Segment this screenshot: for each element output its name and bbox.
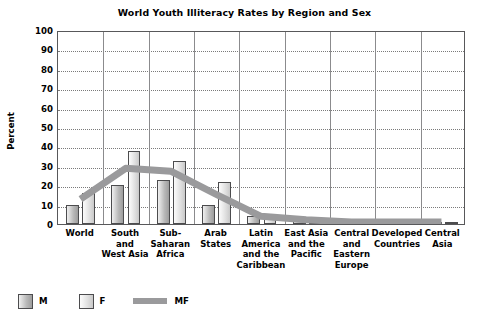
x-axis-label-line: Asia xyxy=(414,239,470,250)
legend-swatch-mf-icon xyxy=(133,298,167,304)
plot-area xyxy=(57,31,465,225)
legend-label-f: F xyxy=(100,296,106,306)
y-axis-tick-label: 100 xyxy=(3,27,53,36)
y-axis: Percent 0102030405060708090100 xyxy=(0,31,53,225)
legend-item-m: M xyxy=(18,294,48,309)
y-axis-tick-label: 40 xyxy=(3,143,53,152)
y-axis-tick-label: 70 xyxy=(3,85,53,94)
y-axis-tick-label: 50 xyxy=(3,124,53,133)
x-axis-label-line: Central xyxy=(414,228,470,239)
y-axis-tick-label: 20 xyxy=(3,182,53,191)
y-axis-tick-label: 80 xyxy=(3,66,53,75)
chart-container: World Youth Illiteracy Rates by Region a… xyxy=(0,0,489,322)
x-axis-label-line: Europe xyxy=(324,260,380,271)
legend-item-mf: MF xyxy=(133,296,188,306)
legend-swatch-f-icon xyxy=(79,294,94,309)
chart-title: World Youth Illiteracy Rates by Region a… xyxy=(0,7,489,18)
x-axis-label-line: Africa xyxy=(142,249,198,260)
legend-swatch-m-icon xyxy=(18,294,33,309)
y-axis-tick-label: 0 xyxy=(3,221,53,230)
y-axis-tick-label: 10 xyxy=(3,202,53,211)
x-axis-label: CentralAsia xyxy=(414,228,470,249)
chart-legend: M F MF xyxy=(18,287,264,315)
legend-item-f: F xyxy=(79,294,106,309)
legend-label-m: M xyxy=(39,296,48,306)
mf-line-path xyxy=(81,168,442,222)
x-axis-label-line: Eastern xyxy=(324,249,380,260)
x-axis-category-labels: WorldSouthandWest AsiaSub-SaharanAfricaA… xyxy=(57,228,465,290)
y-axis-tick-label: 30 xyxy=(3,163,53,172)
legend-label-mf: MF xyxy=(174,296,188,306)
y-axis-tick-label: 90 xyxy=(3,46,53,55)
x-axis-label-line: Caribbean xyxy=(233,260,289,271)
mf-trend-line xyxy=(58,32,464,224)
y-axis-tick-label: 60 xyxy=(3,105,53,114)
